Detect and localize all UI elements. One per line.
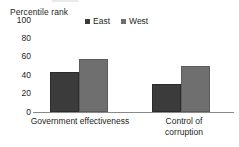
bar-east-0 <box>50 72 79 112</box>
legend-label-west: West <box>129 16 148 26</box>
legend-swatch-west-icon <box>121 19 126 24</box>
y-axis-tick-label: 60 <box>3 52 31 61</box>
plot-area <box>36 20 233 112</box>
y-axis-tick-label: 80 <box>3 34 31 43</box>
legend-label-east: East <box>93 16 110 26</box>
category-label-line: corruption <box>148 127 220 138</box>
legend-item-west: West <box>121 16 148 26</box>
x-axis-line <box>33 112 234 113</box>
legend-item-east: East <box>85 16 110 26</box>
y-axis-tick-label: 100 <box>3 16 31 25</box>
y-axis-tick-label: 20 <box>3 89 31 98</box>
bar-west-0 <box>79 59 108 112</box>
scan-artifact <box>52 0 78 2</box>
category-label-control-of-corruption: Control of corruption <box>148 116 220 137</box>
bar-east-1 <box>152 84 181 112</box>
category-label-line: Government effectiveness <box>20 116 140 127</box>
legend-swatch-east-icon <box>85 19 90 24</box>
y-axis-tick-label: 40 <box>3 71 31 80</box>
bar-west-1 <box>181 66 210 112</box>
category-label-line: Control of <box>148 116 220 127</box>
bar-chart: Percentile rank 100806040200 East West G… <box>0 0 239 147</box>
legend: East West <box>85 16 148 26</box>
category-label-government-effectiveness: Government effectiveness <box>20 116 140 127</box>
